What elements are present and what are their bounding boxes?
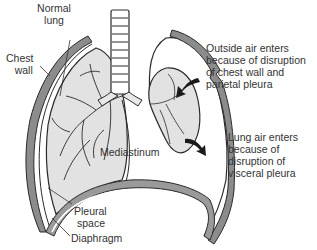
normal-lung-label-line2: lung (12, 14, 96, 26)
pneumothorax-illustration (0, 0, 317, 250)
lung-air-label-line4: visceral pleura (228, 167, 298, 179)
outside-air-label-line1: Outside air enters (206, 42, 306, 54)
outside-air-label-line2: because of disruption (206, 54, 306, 66)
chest-wall-label: Chest wall (6, 52, 33, 76)
chest-wall-label-line1: Chest (6, 52, 33, 64)
lung-air-label-line2: because of (228, 143, 298, 155)
outside-air-label-line4: parietal pleura (206, 78, 306, 90)
mediastinum-label: Mediastinum (100, 146, 160, 158)
lung-air-label-line3: disruption of (228, 155, 298, 167)
pleural-space-label-line1: Pleural (74, 205, 107, 217)
diaphragm-label: Diaphragm (71, 232, 122, 244)
normal-lung-label-line1: Normal (12, 2, 96, 14)
chest-wall-leader (40, 66, 50, 76)
chest-wall-label-line2: wall (6, 64, 33, 76)
normal-lung-label: Normal lung (12, 2, 96, 26)
outside-air-label-line3: of chest wall and (206, 66, 306, 78)
pleural-space-label-line2: space (74, 217, 107, 229)
lung-air-label: Lung air enters because of disruption of… (228, 131, 298, 179)
outside-air-label: Outside air enters because of disruption… (206, 42, 306, 90)
pleural-space-label: Pleural space (74, 205, 107, 229)
lung-air-label-line1: Lung air enters (228, 131, 298, 143)
